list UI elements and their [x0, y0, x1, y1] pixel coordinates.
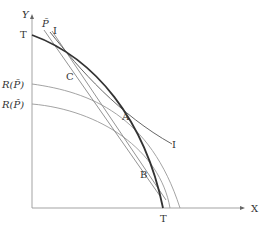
point-c-label: C: [66, 71, 74, 82]
axes: [30, 14, 245, 210]
y-axis-label: Y: [22, 9, 30, 20]
point-a-label: A: [121, 111, 130, 122]
t-label-top: T: [20, 29, 27, 40]
x-axis-arrow-icon: [240, 206, 245, 210]
revenue-upper-label: R(P̄): [1, 79, 24, 90]
indifference-curve: [50, 32, 172, 144]
revenue-curve-lower: [32, 104, 170, 208]
y-axis-arrow-icon: [30, 14, 34, 19]
indifference-label-right: I: [172, 139, 176, 150]
price-line-label: P̄: [41, 18, 49, 29]
ppf-diagram: Y X T T P̄ I I R(P̄) R(P̂) C A B: [0, 0, 261, 229]
point-b-label: B: [140, 169, 147, 180]
indifference-label-top: I: [53, 25, 57, 36]
revenue-lower-label: R(P̂): [1, 99, 24, 110]
x-axis-label: X: [251, 203, 259, 214]
tangent-line-b: [52, 31, 166, 200]
t-label-bottom: T: [160, 213, 167, 224]
